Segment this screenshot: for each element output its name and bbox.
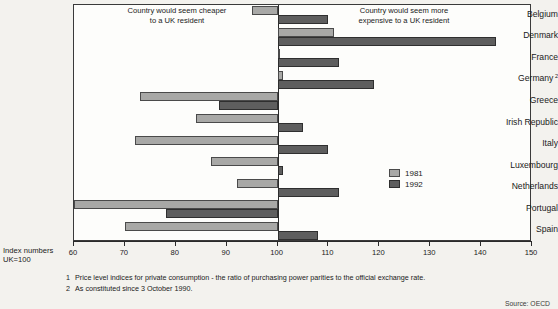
bar	[219, 101, 278, 110]
bar	[278, 145, 329, 154]
x-tick-label: 130	[423, 248, 436, 257]
x-tick-label: 140	[474, 248, 487, 257]
footnote-2: 2As constituted since 3 October 1990.	[66, 283, 425, 294]
bar	[278, 28, 334, 37]
footnote-number: 2	[66, 283, 75, 294]
x-tick-label: 90	[221, 248, 229, 257]
x-tick-label: 150	[525, 248, 538, 257]
plot-area	[73, 4, 531, 241]
x-tick-label: 110	[321, 248, 333, 257]
footnote-number: 1	[66, 272, 75, 283]
chart-figure: Country would seem cheaper to a UK resid…	[0, 0, 558, 309]
footnotes: 1Price level indices for private consump…	[66, 272, 425, 294]
bar	[140, 92, 277, 101]
bar	[74, 200, 278, 209]
x-tick-label: 120	[372, 248, 385, 257]
bar	[196, 114, 277, 123]
x-tick-label: 60	[69, 248, 77, 257]
category-label-italy: Italy	[490, 138, 558, 148]
category-label-netherlands: Netherlands	[490, 181, 558, 191]
footnote-1: 1Price level indices for private consump…	[66, 272, 425, 283]
bar	[278, 166, 283, 175]
bar	[278, 71, 283, 80]
category-label-france: France	[490, 52, 558, 62]
bar	[211, 157, 277, 166]
category-label-portugal: Portugal	[490, 203, 558, 213]
category-label-belgium: Belgium	[490, 9, 558, 19]
x-tick-label: 70	[120, 248, 128, 257]
bar	[166, 209, 278, 218]
legend-swatch	[389, 169, 400, 177]
category-label-greece: Greece	[490, 95, 558, 105]
footnote-text: Price level indices for private consumpt…	[75, 273, 425, 282]
bar	[278, 49, 280, 58]
x-tick-label: 80	[171, 248, 179, 257]
legend-swatch	[389, 180, 400, 188]
axis-note: Index numbers UK=100	[3, 246, 53, 264]
bar	[237, 179, 278, 188]
bar	[278, 58, 339, 67]
bar	[125, 222, 278, 231]
x-axis-line	[73, 241, 531, 242]
footnote-text: As constituted since 3 October 1990.	[75, 284, 192, 293]
x-tick-label: 100	[270, 248, 283, 257]
legend-item-1981: 1981	[389, 168, 423, 178]
category-label-spain: Spain	[490, 224, 558, 234]
category-label-luxembourg: Luxembourg	[490, 160, 558, 170]
category-label-denmark: Denmark	[490, 30, 558, 40]
bar	[278, 231, 319, 240]
x-tick	[531, 241, 532, 246]
bar	[135, 136, 277, 145]
category-label-irish-republic: Irish Republic	[490, 117, 558, 127]
source-credit: Source: OECD	[505, 300, 550, 307]
legend-item-1992: 1992	[389, 179, 423, 189]
panel-caption-cheaper: Country would seem cheaper to a UK resid…	[78, 6, 276, 25]
bar	[278, 80, 375, 89]
legend-label: 1992	[405, 180, 423, 189]
bar	[278, 37, 497, 46]
legend-label: 1981	[405, 169, 423, 178]
category-label-germany: Germany 2	[490, 73, 558, 84]
chart-legend: 19811992	[389, 168, 423, 190]
bar	[278, 188, 339, 197]
bar	[278, 123, 303, 132]
